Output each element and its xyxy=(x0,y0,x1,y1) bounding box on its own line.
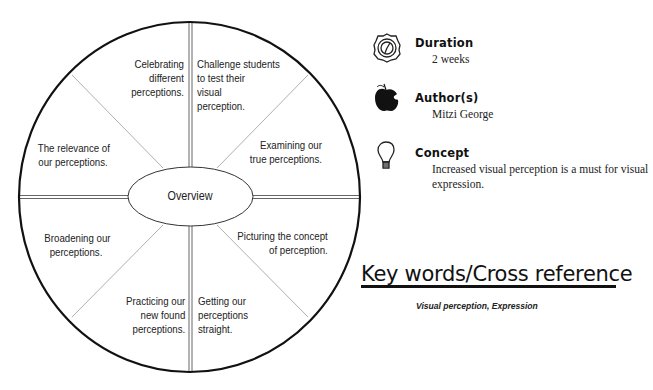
segment-right-upper: Examining our true perceptions. xyxy=(250,138,322,166)
segment-top-right: Challenge students to test their visual … xyxy=(197,57,280,113)
segment-left-lower: Broadening our perceptions. xyxy=(44,231,107,259)
center-label-overview: Overview xyxy=(154,189,226,203)
segment-top-left: Celebrating different perceptions. xyxy=(131,57,184,99)
authors-value: Mitzi George xyxy=(432,107,653,122)
clock-icon xyxy=(372,32,402,64)
segment-left-upper: The relevance of our perceptions. xyxy=(38,141,108,169)
keywords-underline xyxy=(361,285,616,288)
segment-bottom-right: Getting our perceptions straight. xyxy=(198,294,248,336)
duration-value: 2 weeks xyxy=(432,52,653,67)
apple-icon xyxy=(372,82,402,114)
concept-value: Increased visual perception is a must fo… xyxy=(432,162,653,192)
keywords-values: Visual perception, Expression xyxy=(416,300,538,311)
authors-title: Author(s) xyxy=(415,91,479,105)
lightbulb-icon xyxy=(372,140,402,172)
segment-right-lower: Picturing the concept of perception. xyxy=(238,229,328,257)
keywords-heading: Key words/Cross reference xyxy=(361,262,632,286)
segment-bottom-left: Practicing our new found perceptions. xyxy=(126,294,185,336)
concept-title: Concept xyxy=(415,146,469,160)
duration-title: Duration xyxy=(415,36,473,50)
